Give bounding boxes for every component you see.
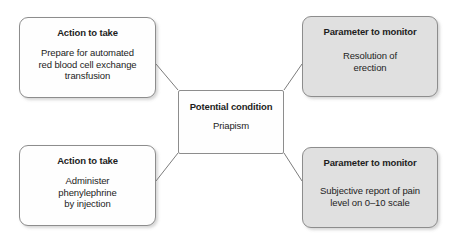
- node-title: Action to take: [57, 27, 118, 38]
- node-title: Action to take: [57, 155, 118, 166]
- node-body-line: Prepare for automated: [38, 47, 136, 59]
- node-body-line: transfusion: [38, 70, 136, 82]
- connector-condition-to-action-bottom: [156, 153, 178, 181]
- node-body: Prepare for automated red blood cell exc…: [38, 47, 136, 82]
- node-title: Parameter to monitor: [323, 26, 416, 37]
- node-body-line: Administer: [58, 175, 116, 187]
- node-body: Resolution of erection: [343, 50, 397, 73]
- node-body-line: Subjective report of pain: [320, 185, 420, 197]
- node-body: Administer phenylephrine by injection: [58, 175, 116, 210]
- diagram-canvas: Action to take Prepare for automated red…: [0, 0, 456, 241]
- connector-condition-to-param-bottom: [284, 153, 302, 181]
- node-body-line: erection: [343, 62, 397, 74]
- node-body: Subjective report of pain level on 0–10 …: [320, 185, 420, 208]
- node-body-line: red blood cell exchange: [38, 59, 136, 71]
- node-body-line: Resolution of: [343, 50, 397, 62]
- node-body-line: by injection: [58, 198, 116, 210]
- node-potential-condition: Potential condition Priapism: [178, 90, 284, 154]
- node-parameter-to-monitor-top: Parameter to monitor Resolution of erect…: [302, 16, 438, 97]
- connector-condition-to-action-top: [156, 64, 178, 90]
- node-action-to-take-bottom: Action to take Administer phenylephrine …: [19, 145, 156, 226]
- connector-condition-to-param-top: [284, 64, 302, 90]
- node-title: Potential condition: [190, 101, 273, 112]
- node-body-line: Priapism: [213, 120, 249, 132]
- node-action-to-take-top: Action to take Prepare for automated red…: [19, 17, 156, 98]
- node-body: Priapism: [213, 120, 249, 132]
- node-title: Parameter to monitor: [323, 157, 416, 168]
- node-body-line: level on 0–10 scale: [320, 197, 420, 209]
- node-parameter-to-monitor-bottom: Parameter to monitor Subjective report o…: [302, 147, 438, 228]
- node-body-line: phenylephrine: [58, 187, 116, 199]
